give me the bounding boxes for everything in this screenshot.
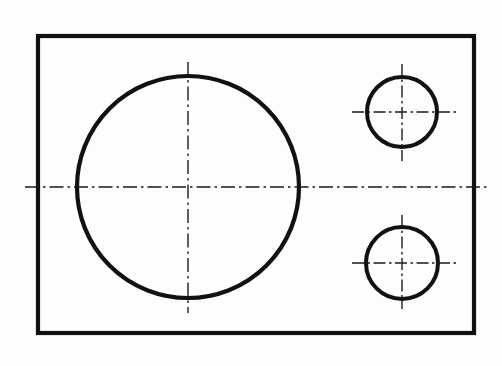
plate-outline (38, 36, 474, 333)
technical-drawing-canvas (0, 0, 502, 366)
engineering-drawing-svg (0, 0, 502, 366)
